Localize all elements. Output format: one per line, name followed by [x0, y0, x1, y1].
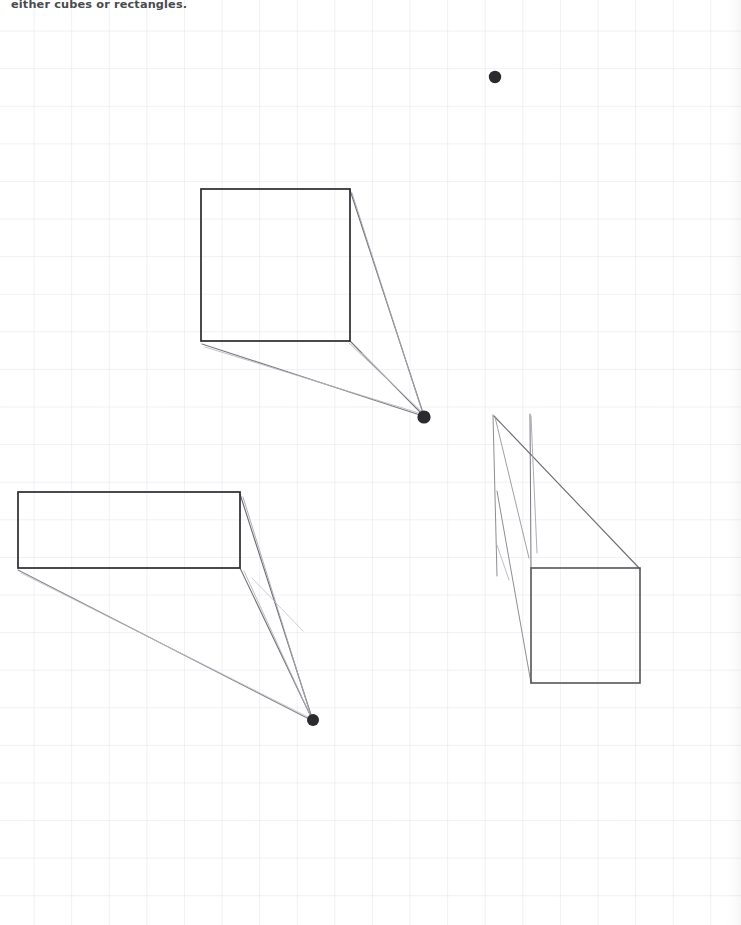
- worksheet-page: either cubes or rectangles.: [0, 0, 741, 925]
- guide-rect-bottomright-to-vp-ghost: [244, 571, 311, 717]
- guide-right-curve-b: [531, 416, 537, 553]
- front-face-square-right: [531, 568, 640, 683]
- vanishing-point-top: [489, 71, 501, 83]
- guide-right-vertical-inner: [530, 414, 531, 568]
- perspective-drawing-canvas: [0, 0, 741, 925]
- vanishing-points-layer: [307, 71, 501, 726]
- guide-right-diagonal-to-topright: [494, 416, 640, 569]
- guide-upper-topright-to-vp-ghost: [352, 193, 423, 414]
- vanishing-point-middle: [417, 410, 430, 423]
- shape-outlines-layer: [18, 189, 640, 683]
- guide-upper-stray-short: [362, 353, 419, 410]
- vanishing-point-lower: [307, 714, 319, 726]
- guide-right-vertical-outer: [493, 415, 497, 576]
- front-face-rectangle-left: [18, 492, 240, 568]
- front-face-square-upper: [201, 189, 350, 341]
- construction-lines-layer: [18, 190, 640, 720]
- guide-rect-topright-to-vp-ghost: [243, 497, 311, 716]
- guide-rect-bottomleft-to-vp-ghost: [21, 573, 310, 718]
- guide-right-long-to-bottomleft: [497, 491, 531, 683]
- guide-right-curve-a: [495, 417, 529, 558]
